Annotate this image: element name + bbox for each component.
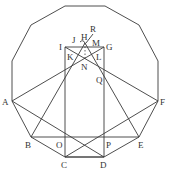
label-F: F — [160, 97, 165, 107]
label-D: D — [100, 160, 107, 170]
label-L: L — [96, 52, 102, 62]
segment-FC — [65, 101, 158, 157]
geometry-diagram: A B O P E C D F I G H R J M K L N Q — [0, 0, 170, 172]
label-H: H — [81, 32, 88, 42]
label-P: P — [106, 140, 111, 150]
label-M: M — [92, 38, 100, 48]
label-G: G — [106, 42, 113, 52]
label-J: J — [72, 35, 76, 45]
label-R: R — [90, 24, 96, 34]
segment-AG — [12, 47, 104, 101]
label-B: B — [25, 140, 31, 150]
label-A: A — [2, 97, 9, 107]
segment-FI — [65, 47, 158, 101]
label-I: I — [59, 42, 62, 52]
dodecagon — [12, 6, 158, 157]
segment-HE — [85, 43, 139, 137]
label-K: K — [67, 52, 74, 62]
label-C: C — [61, 160, 67, 170]
label-N: N — [81, 62, 88, 72]
label-E: E — [138, 140, 144, 150]
label-O: O — [56, 140, 63, 150]
label-Q: Q — [96, 75, 103, 85]
segment-HB — [31, 43, 85, 137]
